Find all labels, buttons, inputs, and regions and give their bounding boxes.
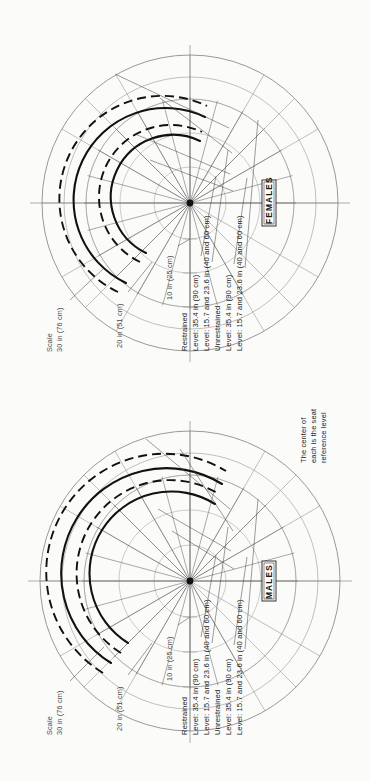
legend-unrestrained-title: Unrestrained — [213, 690, 222, 735]
scale-ring-30-label: 30 in (76 cm) — [55, 690, 64, 735]
males-svg: MALES Restrained Level: 35.4 in (90 cm) … — [0, 391, 370, 781]
scale-ring-10-label: 10 in (25 cm) — [165, 255, 174, 300]
legend-unrestrained-item-2: Level: 15.7 and 23.6 in (40 and 60 cm) — [235, 599, 244, 735]
sex-label-females: FEMALES — [262, 176, 276, 226]
curve-unrestrained-40-60cm — [99, 125, 202, 262]
legend-restrained-title: Restrained — [180, 697, 189, 735]
legend-unrestrained-item-2: Level: 15.7 and 23.6 in (40 and 60 cm) — [235, 215, 244, 351]
legend-unrestrained-item-1: Level: 35.4 in (90 cm) — [224, 658, 233, 735]
curve-unrestrained-40-60cm — [77, 480, 219, 653]
legend-restrained-item-1: Level: 35.4 in (90 cm) — [191, 658, 200, 735]
females-svg: FEMALES Restrained Level: 35.4 in (90 cm… — [0, 0, 370, 390]
center-hub — [187, 578, 194, 585]
legend-restrained-item-2: Level: 15.7 and 23.6 in (40 and 60 cm) — [202, 215, 211, 351]
sex-label-text: FEMALES — [264, 176, 274, 224]
legend-unrestrained-title: Unrestrained — [213, 306, 222, 351]
legend-restrained-item-2: Level: 15.7 and 23.6 in (40 and 60 cm) — [202, 599, 211, 735]
scale-ring-20-label: 20 in (51 cm) — [115, 686, 124, 731]
figure-page: FEMALES Restrained Level: 35.4 in (90 cm… — [0, 0, 370, 781]
legend-restrained-title: Restrained — [180, 313, 189, 351]
scale-caption: Scale — [45, 333, 54, 352]
curve-leaders — [115, 74, 233, 191]
legend-unrestrained-item-1: Level: 35.4 in (90 cm) — [224, 274, 233, 351]
scale-caption: Scale — [45, 716, 54, 735]
center-hub — [187, 200, 194, 207]
scale-ring-10-label: 10 in (25 cm) — [165, 636, 174, 681]
females-grid — [30, 45, 350, 362]
legend-restrained-item-1: Level: 35.4 in (90 cm) — [191, 274, 200, 351]
polar-chart-males: MALES Restrained Level: 35.4 in (90 cm) … — [0, 391, 370, 781]
scale-ring-20-label: 20 in (51 cm) — [115, 303, 124, 348]
polar-chart-females: FEMALES Restrained Level: 35.4 in (90 cm… — [0, 0, 370, 390]
sex-label-text: MALES — [264, 564, 274, 599]
sex-label-males: MALES — [262, 561, 276, 601]
scale-ring-30-label: 30 in (76 cm) — [55, 307, 64, 352]
females-scale-labels: Scale 30 in (76 cm) 20 in (51 cm) 10 in … — [45, 239, 190, 352]
curve-unrestrained-90cm — [90, 492, 215, 643]
curve-restrained-90cm — [74, 108, 205, 283]
